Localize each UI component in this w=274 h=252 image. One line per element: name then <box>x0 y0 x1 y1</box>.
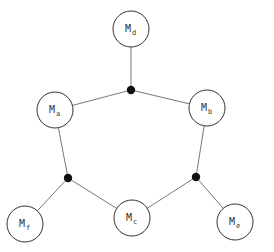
junction-dot-j1 <box>127 86 135 94</box>
node-label-subscript: e <box>236 222 240 230</box>
node-label-subscript: f <box>26 224 30 232</box>
node-mf: Mf <box>7 206 43 242</box>
node-label: M <box>49 104 55 115</box>
node-ma: Ma <box>37 92 73 128</box>
node-label-subscript: a <box>56 110 60 118</box>
node-label: M <box>19 218 25 229</box>
node-label: M <box>125 23 131 34</box>
node-label: M <box>201 102 207 113</box>
node-label: M <box>229 216 235 227</box>
node-me: Me <box>217 204 253 240</box>
node-mb: Mb <box>189 90 225 126</box>
node-label-subscript: d <box>132 29 136 37</box>
node-label: M <box>126 212 132 223</box>
node-label-subscript: b <box>208 108 212 116</box>
node-mc: Mc <box>114 200 150 236</box>
nodes: MdMaMbMfMcMe <box>7 11 253 242</box>
node-label-subscript: c <box>133 218 137 226</box>
junctions <box>64 86 200 182</box>
node-md: Md <box>113 11 149 47</box>
junction-dot-j2 <box>64 174 72 182</box>
network-diagram: MdMaMbMfMcMe <box>0 0 274 252</box>
junction-dot-j3 <box>192 173 200 181</box>
